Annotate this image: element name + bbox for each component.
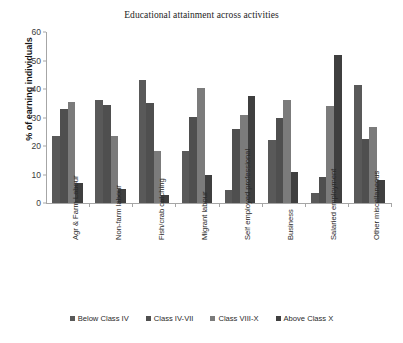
chart-title: Educational attainment across activities (0, 10, 403, 20)
x-axis-tick-mark (348, 203, 349, 207)
bar (283, 100, 291, 203)
bar-group (139, 32, 169, 203)
bar (268, 140, 276, 203)
legend-label: Class VIII-X (218, 314, 258, 323)
x-axis-tick-mark (262, 203, 263, 207)
y-axis-tick-mark (43, 203, 46, 204)
legend-item[interactable]: Class VIII-X (210, 314, 258, 323)
y-axis-tick-mark (43, 60, 46, 61)
bar (232, 129, 240, 203)
y-axis-tick-mark (43, 117, 46, 118)
x-axis-tick-mark (89, 203, 90, 207)
y-axis-tick-mark (43, 146, 46, 147)
bar (189, 117, 197, 203)
x-axis-tick-mark (219, 203, 220, 207)
x-axis-category-label: Non-farm labour (114, 185, 123, 240)
y-axis-tick-mark (43, 32, 46, 33)
x-axis-category-label: Migrant labour (200, 191, 209, 240)
legend-swatch-icon (146, 316, 151, 321)
x-axis-tick-mark (132, 203, 133, 207)
x-axis-category-label: Business (286, 209, 295, 240)
x-axis-category-label: Agr & Farm Labour (71, 175, 80, 240)
x-axis-category-label: Self employed professional (243, 149, 252, 240)
bar (354, 85, 362, 203)
bar (52, 136, 60, 203)
bar-group (268, 32, 298, 203)
bar (319, 177, 327, 203)
legend-swatch-icon (210, 316, 215, 321)
legend-swatch-icon (70, 316, 75, 321)
x-axis-category-label: Other miscellaneous (372, 171, 381, 240)
bar (103, 105, 111, 203)
bar (182, 151, 190, 203)
x-axis-tick-mark (391, 203, 392, 207)
chart-container: Educational attainment across activities… (0, 0, 403, 343)
legend-item[interactable]: Above Class X (276, 314, 334, 323)
bar (60, 109, 68, 203)
legend-item[interactable]: Class IV-VII (146, 314, 194, 323)
bar (311, 193, 319, 203)
bar (362, 139, 370, 203)
bar (146, 103, 154, 203)
legend-label: Below Class IV (78, 314, 129, 323)
bar-group (182, 32, 212, 203)
y-axis-tick-mark (43, 89, 46, 90)
bar (276, 118, 284, 204)
bar (225, 190, 233, 203)
x-axis-category-label: Fish/crab catching (157, 178, 166, 240)
legend-item[interactable]: Below Class IV (70, 314, 129, 323)
bar (291, 172, 299, 203)
x-axis-category-label: Salaried employment (329, 169, 338, 240)
chart-legend: Below Class IVClass IV-VIIClass VIII-XAb… (0, 314, 403, 323)
x-axis-tick-mark (305, 203, 306, 207)
bar (139, 80, 147, 203)
y-axis-tick-mark (43, 174, 46, 175)
legend-swatch-icon (276, 316, 281, 321)
bar (197, 88, 205, 203)
plot-area: 0102030405060Agr & Farm LabourNon-farm l… (46, 32, 391, 203)
bar-group (95, 32, 125, 203)
legend-label: Class IV-VII (154, 314, 194, 323)
x-axis-tick-mark (175, 203, 176, 207)
legend-label: Above Class X (284, 314, 334, 323)
bar (95, 100, 103, 203)
